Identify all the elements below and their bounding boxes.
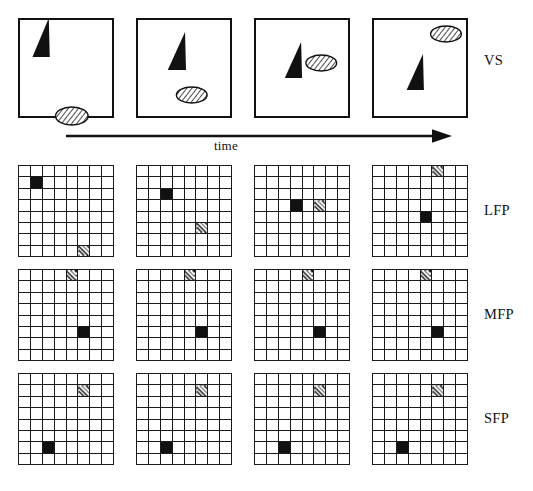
grid-cell — [148, 374, 160, 385]
feature-plane-grid — [254, 373, 350, 465]
grid-cell — [160, 166, 172, 177]
grid-cell — [196, 430, 208, 441]
grid-cell-hatched — [196, 222, 208, 233]
grid-cell — [255, 281, 267, 292]
grid-cell — [278, 281, 290, 292]
grid-cell — [160, 374, 172, 385]
grid-cell — [432, 200, 444, 211]
grid-cell — [220, 442, 232, 453]
grid-cell — [160, 315, 172, 326]
grid-cell — [396, 234, 408, 245]
grid-cell — [220, 408, 232, 419]
grid-cell — [278, 292, 290, 303]
grid-cell — [54, 385, 66, 396]
grid-cell — [19, 374, 31, 385]
grid-cell — [148, 200, 160, 211]
grid-cell — [148, 270, 160, 281]
grid-cell — [148, 188, 160, 199]
grid-row — [137, 245, 232, 256]
grid-cell — [326, 245, 338, 256]
grid-cell — [326, 338, 338, 349]
grid-cell — [30, 234, 42, 245]
grid-cell — [408, 222, 420, 233]
grid-cell — [373, 200, 385, 211]
grid-cell — [314, 315, 326, 326]
grid-row — [19, 211, 114, 222]
grid-cell — [30, 315, 42, 326]
grid-cell — [290, 349, 302, 360]
grid-row — [137, 315, 232, 326]
grid-row — [137, 200, 232, 211]
grid-table — [136, 269, 232, 361]
row-label-vs: VS — [484, 52, 503, 69]
grid-cell — [54, 430, 66, 441]
grid-cell — [278, 408, 290, 419]
grid-cell — [172, 245, 184, 256]
grid-cell — [432, 304, 444, 315]
grid-cell — [396, 166, 408, 177]
grid-cell — [384, 326, 396, 337]
grid-cell — [172, 200, 184, 211]
grid-row — [255, 245, 350, 256]
grid-cell — [90, 338, 102, 349]
grid-cell — [326, 408, 338, 419]
grid-row — [373, 177, 468, 188]
grid-cell — [54, 338, 66, 349]
grid-cell — [384, 166, 396, 177]
grid-cell — [148, 166, 160, 177]
grid-cell — [420, 304, 432, 315]
grid-cell — [54, 281, 66, 292]
grid-cell — [314, 419, 326, 430]
grid-cell — [220, 166, 232, 177]
grid-cell — [432, 281, 444, 292]
visual-scene-panel — [18, 18, 114, 118]
grid-cell — [384, 374, 396, 385]
grid-cell — [184, 349, 196, 360]
grid-cell — [208, 245, 220, 256]
grid-cell — [102, 200, 114, 211]
grid-cell — [444, 188, 456, 199]
grid-cell — [373, 270, 385, 281]
grid-cell — [290, 245, 302, 256]
grid-row — [373, 188, 468, 199]
grid-row — [137, 270, 232, 281]
grid-row — [137, 349, 232, 360]
grid-cell — [396, 292, 408, 303]
grid-cell — [278, 234, 290, 245]
grid-row — [373, 430, 468, 441]
grid-cell — [408, 177, 420, 188]
grid-row — [137, 396, 232, 407]
grid-cell — [42, 315, 54, 326]
grid-cell — [42, 200, 54, 211]
grid-cell — [384, 430, 396, 441]
grid-cell — [78, 211, 90, 222]
grid-cell — [42, 270, 54, 281]
grid-cell — [444, 374, 456, 385]
grid-cell — [444, 166, 456, 177]
grid-cell — [102, 304, 114, 315]
grid-cell — [19, 385, 31, 396]
grid-cell — [19, 408, 31, 419]
grid-cell — [208, 270, 220, 281]
grid-cell — [278, 326, 290, 337]
visual-scene-shapes — [138, 20, 230, 116]
grid-cell — [444, 234, 456, 245]
grid-cell — [220, 326, 232, 337]
grid-cell — [160, 234, 172, 245]
grid-cell-active — [42, 442, 54, 453]
grid-cell — [456, 442, 468, 453]
grid-row — [373, 211, 468, 222]
grid-cell — [314, 453, 326, 464]
grid-cell — [373, 315, 385, 326]
feature-plane-grid — [372, 269, 468, 361]
grid-cell — [326, 315, 338, 326]
grid-cell — [208, 385, 220, 396]
grid-cell — [90, 442, 102, 453]
grid-cell — [137, 326, 149, 337]
grid-cell — [396, 211, 408, 222]
grid-cell — [19, 292, 31, 303]
grid-cell — [208, 200, 220, 211]
grid-cell — [302, 245, 314, 256]
grid-cell — [266, 419, 278, 430]
grid-cell — [172, 188, 184, 199]
